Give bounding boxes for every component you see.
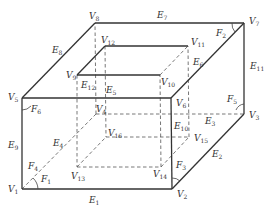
vertex-label-v5: V5 (8, 92, 19, 103)
edge-label-e12: E12 (80, 80, 95, 91)
edge-label-e5: E5 (105, 85, 117, 96)
face-label-f4: F4 (27, 161, 38, 172)
vertex-label-v16: V16 (108, 128, 122, 139)
vertex-label-v7: V7 (249, 16, 260, 27)
hidden-edge-v14-v15 (161, 137, 189, 167)
face-label-f3: F3 (175, 160, 186, 171)
vertex-label-v13: V13 (71, 171, 85, 182)
vertex-label-v2: V2 (177, 189, 188, 200)
face-label-f1: F1 (40, 174, 51, 185)
face-label-f6: F6 (30, 104, 41, 115)
edge-label-e9: E9 (7, 140, 19, 151)
edge-v6-v2 (171, 98, 172, 189)
labels: V1V2V3V4V5V6V7V8V9V10V11V12V13V14V15V16E… (7, 10, 264, 206)
arc-f5 (236, 104, 244, 110)
hidden-edge-v10-v11 (160, 46, 188, 75)
vertex-label-v6: V6 (176, 98, 187, 109)
vertex-label-v14: V14 (153, 169, 167, 180)
vertex-label-v8: V8 (89, 11, 100, 22)
edge-v9-v12 (77, 46, 105, 75)
edge-label-e1: E1 (88, 195, 99, 206)
edge-label-e7: E7 (156, 10, 168, 21)
hidden-edge-v15-v11 (188, 46, 189, 137)
arc-f1 (33, 178, 38, 189)
vertex-label-v12: V12 (101, 35, 115, 46)
vertex-label-v1: V1 (8, 184, 18, 195)
edge-label-e3: E3 (204, 116, 216, 127)
edge-label-e4: E4 (52, 138, 64, 149)
edge-label-e6: E6 (192, 57, 204, 68)
vertex-label-v11: V11 (191, 37, 205, 48)
arc-f3 (172, 178, 180, 181)
vertex-label-v9: V9 (66, 70, 77, 81)
arc-f2 (232, 23, 235, 32)
edge-label-e8: E8 (51, 45, 63, 56)
face-label-f2: F2 (215, 28, 226, 39)
vertex-label-v3: V3 (249, 110, 260, 121)
edge-v7-v6 (171, 23, 244, 98)
arc-f6 (22, 106, 31, 110)
hidden-edge-v14-v10 (160, 75, 161, 167)
edge-label-e2: E2 (211, 149, 223, 160)
face-label-f5: F5 (226, 94, 237, 105)
vertex-label-v4: V4 (96, 104, 107, 115)
vertex-label-v10: V10 (161, 77, 175, 88)
edge-label-e10: E10 (173, 121, 188, 132)
polyhedron-diagram: V1V2V3V4V5V6V7V8V9V10V11V12V13V14V15V16E… (0, 0, 271, 211)
edge-label-e11: E11 (249, 61, 264, 72)
vertex-label-v15: V15 (194, 133, 208, 144)
hidden-edge-v13-v16 (77, 137, 106, 167)
hidden-edge-v4-v8 (95, 23, 96, 114)
